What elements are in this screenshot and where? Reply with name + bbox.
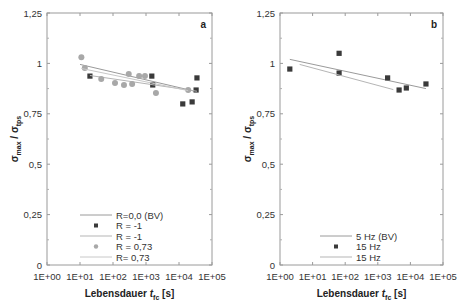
x-tick-label: 1E+01	[299, 271, 327, 282]
legend-circle-swatch	[94, 244, 98, 248]
data-point-circle	[129, 81, 135, 87]
chart-canvas: 00,250,50,7511,251E+001E+011E+021E+031E+…	[0, 0, 466, 305]
data-point-circle	[153, 90, 159, 96]
x-tick-label: 1E+04	[397, 271, 425, 282]
y-tick-label: 0,25	[24, 209, 43, 220]
data-point-square	[194, 87, 199, 92]
data-point-circle	[112, 80, 118, 86]
data-point-square	[287, 66, 292, 71]
x-tick-label: 1E+03	[364, 271, 392, 282]
x-tick-label: 1E+03	[132, 271, 160, 282]
x-tick-label: 1E+05	[429, 271, 457, 282]
data-point-square	[194, 75, 199, 80]
y-tick-label: 1	[37, 58, 42, 69]
x-axis-title: Lebensdauer tfc [s]	[85, 288, 175, 301]
trend-line	[300, 64, 394, 89]
legend-label: R=0,0 (BV)	[116, 210, 163, 221]
legend-label: R = -1	[116, 220, 142, 231]
panel-letter: b	[431, 19, 437, 30]
y-tick-label: 1,25	[257, 8, 276, 19]
trend-line	[81, 68, 188, 90]
data-point-square	[404, 85, 409, 90]
x-tick-label: 1E+02	[99, 271, 127, 282]
y-tick-label: 0,5	[29, 159, 42, 170]
data-point-square	[423, 81, 428, 86]
x-axis-title: Lebensdauer tfc [s]	[317, 288, 407, 301]
x-tick-label: 1E+00	[33, 271, 61, 282]
chart-figure: 00,250,50,7511,251E+001E+011E+021E+031E+…	[0, 0, 466, 305]
data-point-circle	[121, 82, 127, 88]
data-point-circle	[126, 71, 132, 77]
y-tick-label: 0,25	[257, 209, 276, 220]
legend-label: 15 Hz	[356, 252, 381, 263]
y-tick-label: 0	[37, 260, 42, 271]
legend-label: R = -1	[116, 231, 142, 242]
data-point-square	[180, 101, 185, 106]
y-tick-label: 0	[270, 260, 275, 271]
legend-square-swatch	[334, 245, 338, 249]
data-point-circle	[98, 76, 104, 82]
chart-panel-b: 00,250,50,7511,251E+001E+011E+021E+031E+…	[242, 8, 457, 301]
y-axis-title: σmax / σtps	[242, 116, 256, 163]
y-tick-label: 1,25	[24, 8, 43, 19]
y-tick-label: 0,5	[262, 159, 275, 170]
panel-letter: a	[200, 19, 206, 30]
y-tick-label: 1	[270, 58, 275, 69]
data-point-circle	[82, 65, 88, 71]
chart-panel-a: 00,250,50,7511,251E+001E+011E+021E+031E+…	[9, 8, 226, 301]
legend: R=0,0 (BV)R = -1R = -1R = 0,73R= 0,73	[80, 210, 163, 263]
x-tick-label: 1E+00	[266, 271, 294, 282]
x-tick-label: 1E+04	[165, 271, 193, 282]
data-point-square	[396, 87, 401, 92]
legend-label: R= 0,73	[116, 252, 150, 263]
data-point-circle	[136, 73, 142, 79]
y-tick-label: 0,75	[24, 108, 43, 119]
data-point-circle	[78, 54, 84, 60]
data-point-square	[385, 75, 390, 80]
y-tick-label: 0,75	[257, 108, 276, 119]
y-axis-title: σmax / σtps	[9, 116, 23, 163]
plot-area-frame	[280, 13, 443, 265]
data-point-circle	[142, 73, 148, 79]
legend-label: 5 Hz (BV)	[356, 231, 397, 242]
x-tick-label: 1E+01	[66, 271, 94, 282]
data-point-square	[337, 51, 342, 56]
legend-label: 15 Hz	[356, 241, 381, 252]
legend: 5 Hz (BV)15 Hz15 Hz	[320, 231, 397, 263]
data-point-square	[190, 99, 195, 104]
x-tick-label: 1E+05	[198, 271, 226, 282]
trend-line	[290, 59, 426, 88]
legend-square-swatch	[94, 224, 98, 228]
legend-label: R = 0,73	[116, 241, 152, 252]
x-tick-label: 1E+02	[331, 271, 359, 282]
data-point-square	[149, 74, 154, 79]
